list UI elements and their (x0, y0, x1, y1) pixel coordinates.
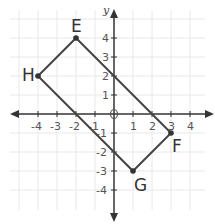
vertex-label-g: G (134, 175, 147, 195)
svg-text:3: 3 (102, 51, 109, 64)
vertex-label-f: F (172, 136, 182, 156)
svg-text:-2: -2 (96, 146, 107, 159)
x-axis-left-arrow-icon (10, 110, 19, 118)
coordinate-plane: y -4 -3 -2 -1 1 2 3 4 4 3 2 1 -1 -2 -3 -… (0, 0, 215, 224)
svg-text:4: 4 (187, 120, 194, 133)
svg-text:-4: -4 (96, 184, 107, 197)
y-axis-up-arrow-icon (110, 9, 118, 18)
vertex-e (73, 35, 79, 41)
y-axis-label: y (102, 4, 110, 17)
svg-text:-3: -3 (96, 165, 107, 178)
x-axis-right-arrow-icon (205, 110, 214, 118)
y-axis-down-arrow-icon (110, 213, 118, 222)
vertex-label-h: H (22, 65, 35, 85)
vertex-f (168, 130, 174, 136)
svg-text:1: 1 (130, 120, 137, 133)
vertex-label-e: E (71, 16, 82, 36)
svg-text:-2: -2 (69, 120, 80, 133)
svg-text:4: 4 (102, 32, 109, 45)
vertex-g (130, 168, 136, 174)
svg-text:-4: -4 (31, 120, 42, 133)
vertex-h (35, 73, 41, 79)
svg-text:2: 2 (102, 70, 109, 83)
svg-text:-1: -1 (96, 127, 107, 140)
svg-text:-3: -3 (50, 120, 61, 133)
svg-text:2: 2 (149, 120, 156, 133)
svg-text:1: 1 (102, 89, 109, 102)
